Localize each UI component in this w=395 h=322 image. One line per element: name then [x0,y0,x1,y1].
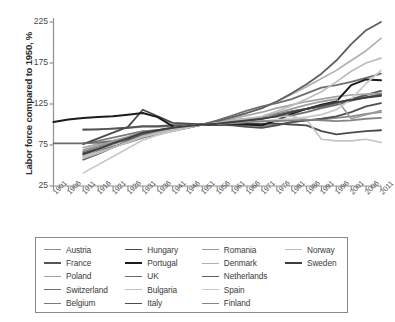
legend-item-uk[interactable]: UK [125,270,201,283]
legend-item-norway[interactable]: Norway [285,243,347,256]
legend-column: AustriaFrancePolandSwitzerlandBelgium [44,243,125,310]
legend-item-portugal[interactable]: Portugal [125,256,201,269]
legend-swatch-icon [125,262,142,264]
legend-swatch-icon [44,276,61,277]
legend-label: Netherlands [224,271,268,281]
legend-swatch-icon [125,249,142,250]
legend-swatch-icon [44,249,61,250]
legend-label: Belgium [66,298,95,308]
legend-swatch-icon [202,289,219,290]
legend-column: HungaryPortugalUKBulgariaItaly [125,243,201,310]
legend-label: Switzerland [66,285,108,295]
legend-swatch-icon [125,289,142,290]
legend-label: Poland [66,271,91,281]
legend-label: Portugal [147,258,177,268]
legend-swatch-icon [125,303,142,304]
legend-swatch-icon [202,303,219,304]
legend-column: RomaniaDenmarkNetherlandsSpainFinland [202,243,285,310]
legend-label: Hungary [147,245,178,255]
legend-label: Finland [224,298,251,308]
legend-label: Denmark [224,258,257,268]
legend-item-netherlands[interactable]: Netherlands [202,270,285,283]
legend-swatch-icon [285,262,302,264]
legend-label: Spain [224,285,245,295]
legend-label: Romania [224,245,257,255]
legend-label: Norway [307,245,335,255]
legend-item-denmark[interactable]: Denmark [202,256,285,269]
x-axis-tick-labels: 1901190619111916192119261931193619411946… [0,188,386,234]
legend-label: France [66,258,91,268]
legend-item-belgium[interactable]: Belgium [44,297,125,310]
legend-item-hungary[interactable]: Hungary [125,243,201,256]
legend-item-romania[interactable]: Romania [202,243,285,256]
legend-label: Bulgaria [147,285,177,295]
legend-swatch-icon [44,289,61,290]
legend-item-spain[interactable]: Spain [202,283,285,296]
legend-swatch-icon [44,303,61,304]
legend-swatch-icon [202,249,219,250]
legend-label: UK [147,271,158,281]
legend-item-austria[interactable]: Austria [44,243,125,256]
legend-column: NorwaySweden [285,243,347,310]
legend-item-france[interactable]: France [44,256,125,269]
legend-swatch-icon [285,249,302,250]
legend-label: Austria [66,245,91,255]
legend-swatch-icon [202,263,219,264]
legend-item-sweden[interactable]: Sweden [285,256,347,269]
plot-area [0,0,386,200]
legend-item-poland[interactable]: Poland [44,270,125,283]
legend-swatch-icon [44,262,61,264]
legend: AustriaFrancePolandSwitzerlandBelgiumHun… [35,237,348,313]
legend-item-italy[interactable]: Italy [125,297,201,310]
legend-swatch-icon [202,276,219,277]
legend-label: Sweden [307,258,336,268]
legend-swatch-icon [125,276,142,277]
series-lines [54,22,382,173]
legend-label: Italy [147,298,162,308]
legend-item-bulgaria[interactable]: Bulgaria [125,283,201,296]
legend-item-finland[interactable]: Finland [202,297,285,310]
legend-item-switzerland[interactable]: Switzerland [44,283,125,296]
